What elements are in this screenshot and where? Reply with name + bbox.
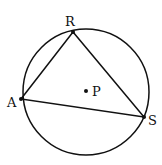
point-A: [19, 97, 23, 101]
point-R: [71, 30, 75, 34]
circle-triangle-diagram: R A S P: [0, 0, 162, 165]
point-S: [142, 115, 146, 119]
label-S: S: [148, 113, 157, 128]
triangle-RAS: [21, 32, 144, 117]
label-A: A: [6, 95, 17, 110]
label-P: P: [92, 84, 101, 99]
label-R: R: [65, 14, 76, 29]
point-P: [84, 89, 88, 93]
